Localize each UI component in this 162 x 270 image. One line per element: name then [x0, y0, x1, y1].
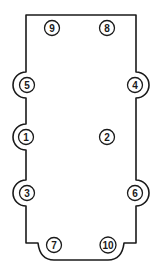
bolt-4: 4	[128, 78, 143, 93]
bolt-2: 2	[100, 130, 115, 145]
bolt-label: 5	[24, 80, 30, 91]
bolt-label: 7	[51, 240, 57, 251]
bolt-5: 5	[20, 78, 35, 93]
bolt-label: 2	[104, 132, 110, 143]
bolt-9: 9	[45, 21, 60, 36]
bolt-10: 10	[100, 237, 116, 253]
bolt-7: 7	[47, 238, 62, 253]
bolt-label: 10	[102, 240, 114, 251]
bolt-label: 8	[104, 23, 110, 34]
bolt-label: 6	[132, 188, 138, 199]
bolt-label: 1	[23, 132, 29, 143]
bolt-8: 8	[100, 21, 115, 36]
bolt-label: 3	[24, 188, 30, 199]
bolt-6: 6	[128, 186, 143, 201]
bolt-3: 3	[20, 186, 35, 201]
bolt-1: 1	[19, 130, 34, 145]
bolt-sequence-diagram: 9 8 5 4 1 2 3 6 7 10	[0, 0, 162, 270]
bolt-label: 9	[49, 23, 55, 34]
bolt-label: 4	[132, 80, 138, 91]
